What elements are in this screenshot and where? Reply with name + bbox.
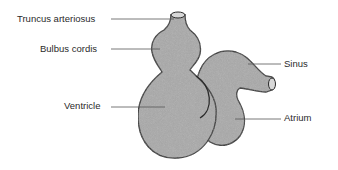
label-bulbus-cordis: Bulbus cordis — [40, 44, 97, 54]
label-ventricle: Ventricle — [64, 101, 100, 111]
truncus-opening-icon — [171, 12, 185, 18]
truncus-bulbus-ventricle-shape — [138, 14, 216, 158]
label-sinus: Sinus — [284, 59, 308, 69]
label-atrium: Atrium — [284, 113, 311, 123]
heart-tube-diagram — [0, 0, 338, 170]
sinus-opening-icon — [269, 78, 276, 90]
label-truncus-arteriosus: Truncus arteriosus — [17, 14, 95, 24]
